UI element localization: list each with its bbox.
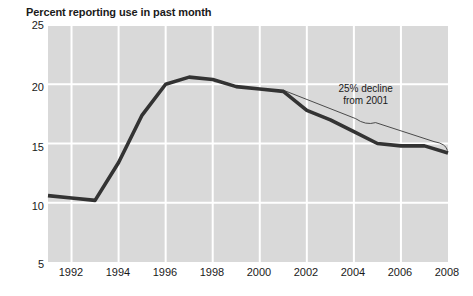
annotation-label: 25% decline from 2001 — [324, 83, 408, 107]
annotation-leader-layer — [0, 0, 473, 296]
annotation-line-1: 25% decline — [324, 83, 408, 95]
chart-figure: Percent reporting use in past month 25 2… — [0, 0, 473, 296]
annotation-line-2: from 2001 — [324, 95, 408, 107]
